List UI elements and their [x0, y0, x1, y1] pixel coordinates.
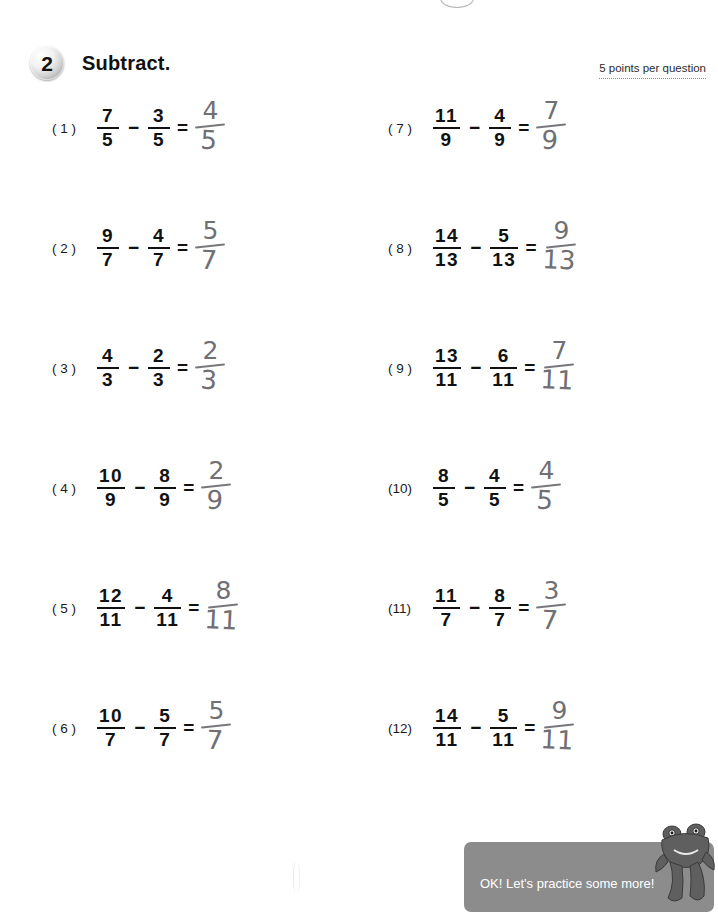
fraction-numerator: 14	[433, 706, 461, 726]
answer-numerator: 2	[203, 339, 219, 364]
fraction: 1413	[433, 226, 461, 269]
answer-numerator: 5	[209, 699, 225, 724]
equals-operator: =	[513, 477, 524, 499]
equals-operator: =	[177, 117, 188, 139]
answer-denominator: 7	[541, 607, 559, 633]
fraction-denominator: 3	[151, 370, 167, 390]
handwritten-answer[interactable]: 23	[194, 338, 226, 394]
section-header: 2 Subtract.	[30, 46, 170, 80]
minus-operator: −	[469, 597, 480, 619]
problem-row: ( 8 )1413−513=913	[388, 220, 577, 340]
fraction: 611	[490, 346, 517, 389]
minus-operator: −	[134, 717, 145, 739]
problem-expression: ( 8 )1413−513=913	[388, 220, 577, 276]
handwritten-answer[interactable]: 913	[543, 218, 578, 274]
fraction-numerator: 5	[496, 226, 512, 246]
answer-denominator: 11	[540, 367, 574, 394]
equals-operator: =	[524, 357, 535, 379]
handwritten-answer[interactable]: 79	[535, 98, 567, 154]
fraction-denominator: 9	[103, 490, 119, 510]
problem-row: ( 9 )1311−611=711	[388, 340, 577, 460]
footer-message: OK! Let's practice some more!	[480, 876, 654, 891]
problem-row: ( 6 )107−57=57	[52, 700, 240, 820]
answer-numerator: 3	[544, 579, 560, 604]
handwritten-answer[interactable]: 45	[530, 458, 562, 514]
fraction-denominator: 9	[439, 130, 455, 150]
fraction-numerator: 8	[157, 466, 173, 486]
fraction: 89	[154, 466, 176, 509]
problem-expression: ( 5 )1211−411=811	[52, 580, 240, 636]
fraction-numerator: 6	[496, 346, 512, 366]
fraction: 411	[154, 586, 181, 629]
problem-row: ( 1 )75−35=45	[52, 100, 240, 220]
answer-numerator: 7	[544, 99, 560, 124]
fraction-numerator: 12	[97, 586, 125, 606]
fraction: 47	[148, 226, 170, 269]
answer-denominator: 3	[200, 367, 218, 393]
fraction-numerator: 7	[100, 106, 116, 126]
fraction: 57	[154, 706, 176, 749]
problem-row: ( 3 )43−23=23	[52, 340, 240, 460]
fraction: 117	[433, 586, 460, 629]
fraction: 75	[97, 106, 119, 149]
answer-denominator: 7	[206, 727, 224, 753]
fraction-numerator: 10	[97, 466, 125, 486]
equals-operator: =	[177, 357, 188, 379]
equals-operator: =	[525, 237, 536, 259]
fraction-denominator: 7	[151, 250, 167, 270]
fraction: 97	[97, 226, 119, 269]
fraction-denominator: 7	[492, 610, 508, 630]
fraction-denominator: 7	[157, 730, 173, 750]
minus-operator: −	[470, 717, 481, 739]
problem-number-label: ( 1 )	[52, 121, 94, 136]
handwritten-answer[interactable]: 711	[542, 338, 577, 394]
problem-number-label: ( 8 )	[388, 241, 430, 256]
fraction: 513	[490, 226, 518, 269]
fraction: 35	[148, 106, 170, 149]
fraction-denominator: 9	[492, 130, 508, 150]
fraction: 43	[97, 346, 119, 389]
answer-denominator: 11	[540, 727, 574, 754]
problem-row: (10)85−45=45	[388, 460, 577, 580]
fraction-numerator: 4	[100, 346, 116, 366]
fraction-denominator: 13	[490, 250, 518, 270]
fraction-numerator: 4	[160, 586, 176, 606]
handwritten-answer[interactable]: 57	[200, 698, 232, 754]
fraction: 87	[489, 586, 511, 629]
problem-number-label: (12)	[388, 721, 430, 736]
fraction-numerator: 4	[487, 466, 503, 486]
problem-expression: ( 9 )1311−611=711	[388, 340, 577, 396]
handwritten-answer[interactable]: 37	[535, 578, 567, 634]
fraction-denominator: 5	[487, 490, 503, 510]
fraction: 107	[97, 706, 125, 749]
answer-numerator: 9	[553, 219, 569, 244]
fraction-numerator: 13	[433, 346, 461, 366]
handwritten-answer[interactable]: 45	[194, 98, 226, 154]
answer-numerator: 2	[209, 459, 225, 484]
fraction-numerator: 4	[492, 106, 508, 126]
equals-operator: =	[183, 717, 194, 739]
pencil-smudge	[293, 862, 300, 892]
handwritten-answer[interactable]: 911	[542, 698, 577, 754]
answer-numerator: 4	[539, 459, 555, 484]
minus-operator: −	[470, 357, 481, 379]
problem-expression: ( 7 )119−49=79	[388, 100, 577, 156]
fraction: 119	[433, 106, 460, 149]
fraction: 1411	[433, 706, 461, 749]
handwritten-answer[interactable]: 57	[194, 218, 226, 274]
problem-expression: (12)1411−511=911	[388, 700, 577, 756]
handwritten-answer[interactable]: 811	[206, 578, 241, 634]
fraction-numerator: 9	[100, 226, 116, 246]
fraction: 45	[484, 466, 506, 509]
problem-number-label: ( 7 )	[388, 121, 430, 136]
answer-numerator: 9	[552, 699, 568, 724]
answer-denominator: 5	[200, 127, 218, 153]
fraction-denominator: 7	[439, 610, 455, 630]
problem-row: ( 7 )119−49=79	[388, 100, 577, 220]
fraction-numerator: 4	[151, 226, 167, 246]
problem-expression: ( 1 )75−35=45	[52, 100, 240, 156]
handwritten-answer[interactable]: 29	[200, 458, 232, 514]
fraction-numerator: 14	[433, 226, 461, 246]
fraction-denominator: 7	[100, 250, 116, 270]
fraction-numerator: 8	[436, 466, 452, 486]
